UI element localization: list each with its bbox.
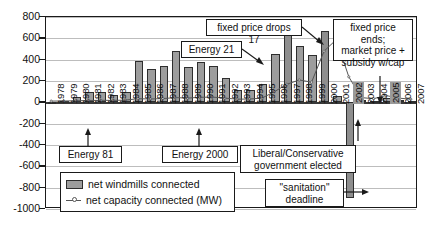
x-axis-label-1994: 1994 [254, 84, 265, 104]
x-axis-label-1998: 1998 [303, 84, 314, 104]
x-axis-label-1990: 1990 [204, 84, 215, 104]
y-axis-tick-label: -400 [0, 139, 40, 149]
annotation-liberal-conservative: Liberal/Conservative government elected [240, 145, 356, 173]
x-axis-label-1996: 1996 [278, 84, 289, 104]
annotation-energy-81: Energy 81 [59, 146, 122, 163]
annotation-line-1: "sanitation" [270, 182, 339, 194]
annotation-sanitation-deadline: "sanitation" deadline [265, 179, 344, 207]
y-axis-tick-label: 400 [0, 54, 40, 64]
x-axis-label-1986: 1986 [154, 84, 165, 104]
x-axis-label-1983: 1983 [117, 84, 128, 104]
annotation-line-3: subsidy w/cap [338, 57, 408, 69]
capacity-point-2002 [348, 76, 350, 78]
bar-swatch-icon [66, 180, 83, 189]
x-axis-label-2003: 2003 [365, 84, 376, 104]
x-axis-label-2005: 2005 [390, 82, 401, 104]
x-axis-label-1988: 1988 [179, 84, 190, 104]
x-axis-label-1979: 1979 [68, 84, 79, 104]
y-axis-tick-mark [39, 208, 45, 209]
y-axis-tick-label: -1000 [0, 203, 40, 213]
x-axis-label-2001: 2001 [340, 84, 351, 104]
x-axis-label-2000: 2000 [328, 84, 339, 104]
x-axis-label-2007: 2007 [415, 84, 426, 104]
chart-figure: 8006004002000-200-400-600-800-1000 19781… [0, 0, 431, 234]
annotation-line-1: Liberal/Conservative [245, 148, 351, 160]
x-axis-label-1989: 1989 [192, 84, 203, 104]
chart-legend: net windmills connected net capacity con… [60, 172, 235, 212]
annotation-line-1: fixed price ends; [338, 22, 408, 45]
x-axis-label-1999: 1999 [316, 84, 327, 104]
capacity-point-1978 [50, 100, 52, 102]
x-axis-label-2006: 2006 [402, 84, 413, 104]
annotation-line-2: market price + [338, 45, 408, 57]
x-axis-label-1991: 1991 [216, 84, 227, 104]
x-axis-label-1995: 1995 [266, 84, 277, 104]
annotation-fixed-price-drops-17: fixed price drops 17 [206, 19, 302, 36]
y-axis-tick-label: -800 [0, 182, 40, 192]
x-axis-label-1993: 1993 [241, 84, 252, 104]
annotation-line-2: government elected [245, 160, 351, 172]
x-axis-label-1982: 1982 [105, 84, 116, 104]
capacity-point-2000 [323, 50, 325, 52]
y-axis-tick-label: 600 [0, 32, 40, 42]
legend-label-capacity: net capacity connected (MW) [86, 194, 222, 206]
line-marker-icon [66, 197, 81, 204]
x-axis-label-1987: 1987 [167, 84, 178, 104]
annotation-fixed-price-ends: fixed price ends; market price + subsidy… [333, 19, 413, 61]
annotation-energy-21: Energy 21 [181, 41, 242, 58]
x-axis-label-1985: 1985 [142, 84, 153, 104]
x-axis-label-1992: 1992 [229, 84, 240, 104]
y-axis-tick-label: -600 [0, 160, 40, 170]
legend-label-windmills: net windmills connected [88, 178, 199, 190]
capacity-point-1998 [298, 79, 300, 81]
annotation-energy-2000: Energy 2000 [162, 146, 238, 163]
legend-item-capacity: net capacity connected (MW) [66, 192, 229, 208]
legend-item-windmills: net windmills connected [66, 176, 229, 192]
x-axis-label-1980: 1980 [80, 84, 91, 104]
x-axis-label-1997: 1997 [291, 84, 302, 104]
x-axis-label-1984: 1984 [130, 84, 141, 104]
x-axis-label-1981: 1981 [92, 84, 103, 104]
x-axis-label-1978: 1978 [55, 84, 66, 104]
x-axis-label-2004: 2004 [378, 84, 389, 104]
y-axis-tick-label: 200 [0, 75, 40, 85]
x-axis-label-2002: 2002 [353, 82, 364, 104]
annotation-line-2: deadline [270, 194, 339, 206]
y-axis-tick-label: 0 [0, 96, 40, 106]
y-axis-tick-label: -200 [0, 118, 40, 128]
y-axis-tick-label: 800 [0, 11, 40, 21]
